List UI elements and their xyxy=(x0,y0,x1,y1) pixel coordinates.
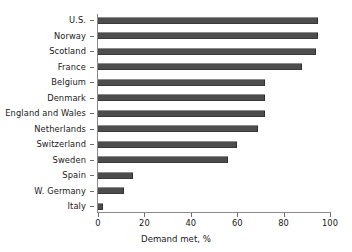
y-axis-tick xyxy=(90,175,94,176)
x-axis-tick xyxy=(144,213,145,217)
x-axis-tick xyxy=(330,213,331,217)
x-axis-tick xyxy=(98,213,99,217)
y-axis-tick xyxy=(90,20,94,21)
bar-france xyxy=(98,63,302,70)
y-axis-tick xyxy=(90,98,94,99)
y-tick-label: Italy xyxy=(0,202,86,211)
y-axis-tick xyxy=(90,36,94,37)
bar-chart: U.S. Norway Scotland France Belgium Denm… xyxy=(0,0,352,252)
bar-belgium xyxy=(98,79,265,86)
x-axis-tick xyxy=(237,213,238,217)
bar-italy xyxy=(98,203,103,210)
bar-denmark xyxy=(98,94,265,101)
y-tick-label: Switzerland xyxy=(0,140,86,149)
y-axis-tick xyxy=(90,160,94,161)
y-tick-label: England and Wales xyxy=(0,109,86,118)
bar-switzerland xyxy=(98,141,237,148)
x-tick-label: 60 xyxy=(217,219,257,228)
y-axis-tick xyxy=(90,67,94,68)
y-tick-label: Belgium xyxy=(0,78,86,87)
x-tick-label: 20 xyxy=(124,219,164,228)
bar-w-germany xyxy=(98,187,124,194)
x-tick-label: 80 xyxy=(264,219,304,228)
y-tick-label: U.S. xyxy=(0,16,86,25)
y-tick-label: Spain xyxy=(0,171,86,180)
y-axis-tick xyxy=(90,191,94,192)
bar-sweden xyxy=(98,156,228,163)
y-axis-tick xyxy=(90,144,94,145)
x-axis-title: Demand met, % xyxy=(0,234,352,244)
bar-scotland xyxy=(98,48,316,55)
x-tick-label: 40 xyxy=(171,219,211,228)
y-axis-tick xyxy=(90,206,94,207)
y-tick-label: Sweden xyxy=(0,156,86,165)
x-axis-tick xyxy=(191,213,192,217)
y-tick-label: W. Germany xyxy=(0,187,86,196)
y-tick-label: Scotland xyxy=(0,47,86,56)
y-axis-tick xyxy=(90,129,94,130)
bar-england-and-wales xyxy=(98,110,265,117)
y-tick-label: Netherlands xyxy=(0,125,86,134)
y-tick-label: Norway xyxy=(0,32,86,41)
y-axis-tick xyxy=(90,51,94,52)
bar-netherlands xyxy=(98,125,258,132)
y-tick-label: France xyxy=(0,63,86,72)
x-tick-label: 100 xyxy=(310,219,350,228)
x-axis-tick xyxy=(284,213,285,217)
y-axis-tick xyxy=(90,113,94,114)
x-tick-label: 0 xyxy=(78,219,118,228)
x-axis-line xyxy=(97,212,331,213)
bar-us xyxy=(98,17,318,24)
y-axis-tick xyxy=(90,82,94,83)
y-tick-label: Denmark xyxy=(0,94,86,103)
bar-norway xyxy=(98,32,318,39)
bar-spain xyxy=(98,172,133,179)
